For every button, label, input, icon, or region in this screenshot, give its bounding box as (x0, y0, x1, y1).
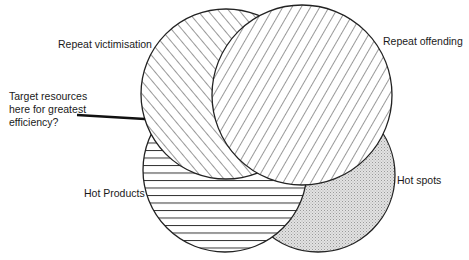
label-repeat-offending: Repeat offending (383, 35, 463, 48)
set-repeat-offending (212, 5, 392, 185)
label-hot-spots: Hot spots (397, 174, 441, 187)
annotation-line-2: here for greatest (9, 103, 87, 116)
annotation-text: Target resources here for greatest effic… (9, 90, 87, 129)
label-hot-products: Hot Products (84, 187, 145, 200)
annotation-line-1: Target resources (9, 90, 87, 103)
annotation-line-3: efficiency? (9, 116, 87, 129)
label-repeat-victimisation: Repeat victimisation (58, 38, 152, 51)
